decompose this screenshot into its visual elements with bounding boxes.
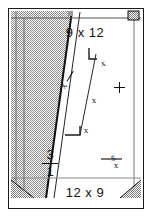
dimension-label-bottom: 12 x 9: [66, 186, 104, 199]
dimension-label-top: 9 x 12: [66, 26, 104, 39]
technical-drawing: 9 x 12 12 x 9 3 1 s x x x x x: [0, 0, 154, 219]
x-mark-lower: x: [82, 126, 90, 134]
x-mark-middle: x: [90, 96, 98, 104]
s-glyph-annotation: s x: [103, 152, 125, 170]
drawing-canvas: 9 x 12 12 x 9 3 1 s x x x x x: [0, 0, 154, 219]
corner-block-top-right: [128, 11, 139, 20]
fraction-denominator: 1: [42, 165, 58, 179]
fraction-numerator: 3: [42, 148, 58, 162]
corner-block-top-left: [68, 11, 73, 16]
plus-crosshair-mark: [114, 82, 125, 93]
fraction-label: 3 1: [42, 148, 58, 178]
x-mark-sglyph: x: [112, 161, 120, 169]
diagonal-annotation-rule: [66, 71, 73, 82]
